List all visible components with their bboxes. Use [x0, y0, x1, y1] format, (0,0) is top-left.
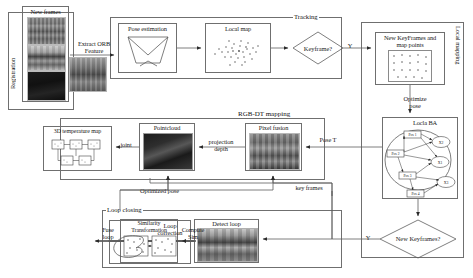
block-new-keyframes-decision-label: New Keyframes?	[396, 235, 441, 242]
svg-text:X1: X1	[438, 161, 443, 165]
svg-text:Pos 4: Pos 4	[412, 192, 420, 196]
keyframes-map-points-dots	[393, 54, 426, 78]
svg-text:Pos 2: Pos 2	[392, 152, 400, 156]
svg-text:X3: X3	[444, 181, 449, 185]
local-map-scatter	[214, 40, 258, 65]
svg-text:Pos 3: Pos 3	[404, 174, 412, 178]
temperature-map-graph-icon	[52, 140, 100, 165]
similarity-transformation-glyph	[124, 236, 176, 256]
diagram-canvas: Registration Tracking Local mapping RGB-…	[0, 0, 473, 278]
connector-layer: Keyframe? New Keyframes?	[0, 0, 473, 278]
pose-estimation-frustum-icon	[128, 37, 168, 66]
local-ba-factor-graph: Pos 1 Pos 2 Pos 3 Pos 4 X2 X1 X3	[385, 130, 455, 197]
svg-text:X2: X2	[439, 141, 444, 145]
svg-text:Pos 1: Pos 1	[409, 133, 417, 137]
block-keyframe-decision-label: Keyframe?	[304, 45, 333, 52]
